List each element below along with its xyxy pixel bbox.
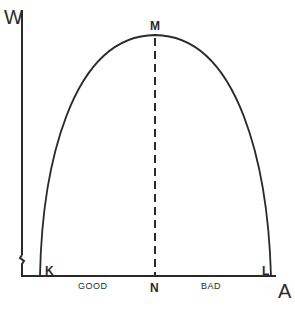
y-axis	[20, 10, 24, 276]
x-axis-label: A	[278, 281, 291, 301]
point-label-m: M	[150, 20, 160, 32]
y-axis-label: W	[4, 7, 23, 27]
point-label-k: K	[45, 265, 54, 277]
point-label-l: L	[262, 265, 269, 277]
point-label-n: N	[150, 282, 159, 294]
region-label-good: GOOD	[78, 282, 108, 291]
region-label-bad: BAD	[201, 282, 221, 291]
